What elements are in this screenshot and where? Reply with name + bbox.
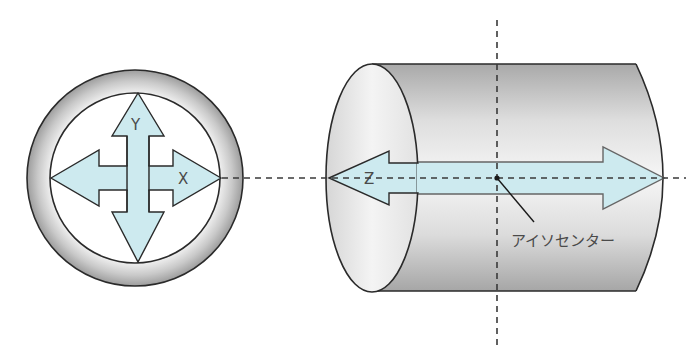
isocenter-label: アイソセンター [511,232,615,250]
y-axis-label: Y [130,116,141,134]
front-view: Y X [27,70,243,286]
isocenter-diagram: Y X Z アイソセンター [0,0,699,355]
z-axis-label: Z [364,170,374,188]
x-axis-label: X [178,170,188,188]
